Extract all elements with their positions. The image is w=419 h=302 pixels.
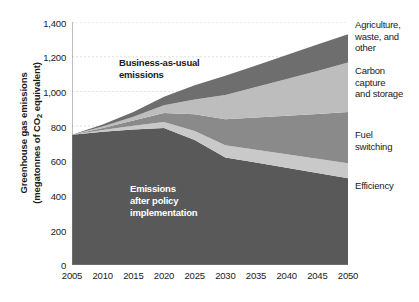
legend-label-line1: Agriculture, <box>355 19 419 31</box>
annotation-policy-line1: Emissions <box>130 183 197 195</box>
annotation-bau-line1: Business-as-usual <box>119 57 200 69</box>
plot-area <box>72 22 348 265</box>
x-tick-label-2040: 2040 <box>270 270 304 281</box>
legend-item-agriculture-waste-and-other: Agriculture, waste, and other <box>355 19 419 54</box>
y-tick-label-600: 600 <box>24 156 66 167</box>
legend-label-line2: switching <box>355 141 419 153</box>
legend-item-efficiency: Efficiency <box>355 180 419 192</box>
annotation-policy-line2: after policy <box>130 195 197 207</box>
y-tick-label-800: 800 <box>24 122 66 133</box>
legend-label-line3: and storage <box>355 88 419 100</box>
stacked-area-svg <box>72 22 348 265</box>
co2-subscript: 2 <box>35 114 44 118</box>
x-tick-label-2030: 2030 <box>208 270 242 281</box>
y-tick-label-1400: 1,400 <box>24 18 66 29</box>
legend-label-line1: Carbon <box>355 65 419 77</box>
x-tick-label-2045: 2045 <box>300 270 334 281</box>
annotation-after-policy: Emissions after policy implementation <box>130 183 197 219</box>
legend-label-line3: other <box>355 42 419 54</box>
chart-figure: Greenhouse gas emissions (megatonnes of … <box>0 0 419 302</box>
annotation-policy-line3: implementation <box>130 207 197 219</box>
x-tick-label-2005: 2005 <box>55 270 89 281</box>
legend-label-line1: Efficiency <box>355 180 419 192</box>
legend-label-line2: capture <box>355 77 419 89</box>
annotation-bau-line2: emissions <box>119 69 200 81</box>
area-bands <box>72 34 348 265</box>
y-tick-label-1000: 1,000 <box>24 87 66 98</box>
legend-label-line1: Fuel <box>355 129 419 141</box>
y-tick-label-200: 200 <box>24 226 66 237</box>
x-tick-label-2035: 2035 <box>239 270 273 281</box>
legend-item-fuel-switching: Fuel switching <box>355 129 419 152</box>
x-tick-label-2050: 2050 <box>331 270 365 281</box>
x-tick-label-2025: 2025 <box>178 270 212 281</box>
x-tick-label-2015: 2015 <box>116 270 150 281</box>
y-tick-label-400: 400 <box>24 191 66 202</box>
y-tick-label-1200: 1,200 <box>24 52 66 63</box>
x-tick-label-2010: 2010 <box>86 270 120 281</box>
legend-label-line2: waste, and <box>355 31 419 43</box>
x-tick-label-2020: 2020 <box>147 270 181 281</box>
annotation-business-as-usual: Business-as-usual emissions <box>119 57 200 81</box>
legend-item-carbon-capture-and-storage: Carbon capture and storage <box>355 65 419 100</box>
